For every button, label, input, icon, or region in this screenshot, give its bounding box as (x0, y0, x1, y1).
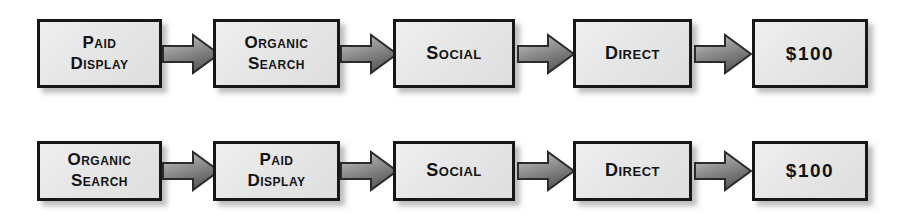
flow-node-label: Direct (601, 160, 664, 182)
flow-node-label: Organic Search (240, 33, 312, 74)
flow-node-r1-3[interactable]: Social (393, 19, 515, 88)
flow-node-label: Paid Display (66, 33, 132, 74)
arrow-right-icon (340, 150, 398, 192)
flow-arrow-r2-1 (162, 150, 220, 192)
flow-node-label: Direct (601, 43, 664, 65)
arrow-right-icon (517, 150, 575, 192)
arrow-right-icon (340, 33, 398, 75)
flow-arrow-r2-3 (517, 150, 575, 192)
flow-node-label: Social (422, 160, 485, 182)
flow-node-r1-4[interactable]: Direct (573, 19, 692, 88)
flow-row-2: Organic Search Paid Display Social Direc… (0, 141, 903, 201)
flow-node-r2-1[interactable]: Organic Search (37, 141, 162, 201)
arrow-right-icon (162, 150, 220, 192)
flow-node-label: Paid Display (243, 150, 309, 191)
flow-node-label: Organic Search (63, 150, 135, 191)
flow-arrow-r2-2 (340, 150, 398, 192)
arrow-right-icon (694, 150, 752, 192)
flow-node-r2-2[interactable]: Paid Display (213, 141, 340, 201)
flow-node-label: $100 (782, 42, 838, 65)
flow-node-label: $100 (782, 159, 838, 182)
flow-node-r2-4[interactable]: Direct (573, 141, 692, 201)
flow-arrow-r1-3 (517, 33, 575, 75)
flow-node-r1-5[interactable]: $100 (752, 19, 868, 88)
flow-arrow-r1-4 (694, 33, 752, 75)
arrow-right-icon (162, 33, 220, 75)
flow-node-r1-2[interactable]: Organic Search (213, 19, 340, 88)
flow-node-r2-5[interactable]: $100 (752, 141, 868, 201)
flow-node-r1-1[interactable]: Paid Display (37, 19, 162, 88)
flow-arrow-r1-1 (162, 33, 220, 75)
flow-arrow-r2-4 (694, 150, 752, 192)
flow-node-label: Social (422, 43, 485, 65)
arrow-right-icon (517, 33, 575, 75)
arrow-right-icon (694, 33, 752, 75)
flow-row-1: Paid Display Organic Search (0, 19, 903, 88)
conversion-path-diagram: Paid Display Organic Search (0, 0, 903, 219)
flow-node-r2-3[interactable]: Social (393, 141, 515, 201)
flow-arrow-r1-2 (340, 33, 398, 75)
